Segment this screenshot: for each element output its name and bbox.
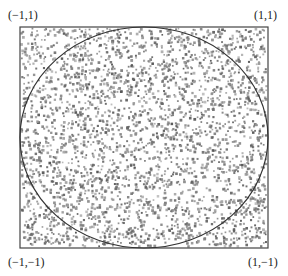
label-bottom-right: (1,−1) [248,256,278,268]
monte-carlo-figure: (−1,1) (1,1) (−1,−1) (1,−1) [0,0,288,276]
label-top-right: (1,1) [254,9,277,21]
label-top-left: (−1,1) [8,9,38,21]
scatter-plot-area [0,0,288,276]
label-bottom-left: (−1,−1) [8,256,45,268]
random-points [20,28,267,248]
